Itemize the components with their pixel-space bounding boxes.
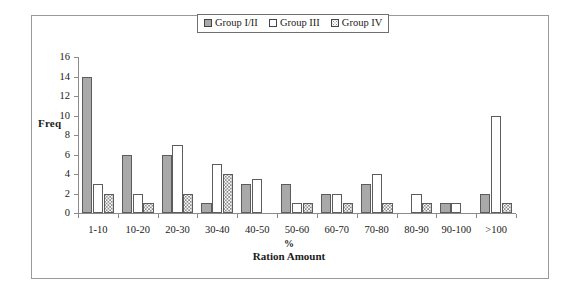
x-axis-tick-label: 10-20	[125, 223, 150, 236]
plot-area: 0246810121416 1-1010-2020-3030-4040-5050…	[78, 57, 516, 214]
x-axis-tick	[237, 214, 238, 218]
bar	[480, 194, 490, 214]
x-axis-tick	[197, 214, 198, 218]
bar	[321, 194, 331, 214]
y-axis-tick-label: 8	[65, 128, 70, 141]
y-axis-title: Freq	[38, 117, 61, 129]
y-axis-tick-label: 14	[60, 70, 71, 83]
bar	[241, 184, 251, 213]
bar	[422, 203, 432, 213]
y-axis-tick-label: 6	[65, 148, 70, 161]
x-axis-title: % Ration Amount	[0, 238, 578, 263]
bar	[332, 194, 342, 214]
bar	[172, 145, 182, 213]
y-axis-tick-label: 10	[60, 109, 71, 122]
y-axis-tick: 12	[74, 96, 78, 97]
x-axis-tick-label: 1-10	[88, 223, 107, 236]
bar	[411, 194, 421, 214]
bar	[212, 164, 222, 213]
x-axis-tick-label: 80-90	[404, 223, 429, 236]
x-axis-tick	[357, 214, 358, 218]
legend-label-group-iv: Group IV	[342, 17, 383, 29]
x-axis-tick-label: 60-70	[325, 223, 350, 236]
x-axis-title-text: Ration Amount	[0, 250, 578, 263]
y-axis-tick-label: 0	[65, 206, 70, 219]
bar	[82, 77, 92, 214]
x-axis-tick	[118, 214, 119, 218]
x-axis-tick-label: 30-40	[205, 223, 230, 236]
y-axis-tick-label: 16	[60, 50, 71, 63]
bar	[343, 203, 353, 213]
x-axis-tick-label: >100	[485, 223, 507, 236]
x-axis-tick-label: 50-60	[285, 223, 310, 236]
bar	[491, 116, 501, 214]
bar	[252, 179, 262, 213]
x-axis-tick	[277, 214, 278, 218]
bar	[162, 155, 172, 214]
y-axis-tick: 4	[74, 174, 78, 175]
bar	[223, 174, 233, 213]
legend-item-group-i-ii: Group I/II	[204, 17, 258, 29]
bar	[183, 194, 193, 214]
y-axis-tick-label: 4	[65, 167, 70, 180]
legend-label-group-iii: Group III	[280, 17, 320, 29]
x-axis-tick-label: 90-100	[441, 223, 471, 236]
y-axis-tick-label: 12	[60, 89, 71, 102]
y-axis-tick: 8	[74, 135, 78, 136]
bar	[451, 203, 461, 213]
solid-gray-swatch-icon	[204, 19, 212, 27]
y-axis-tick: 16	[74, 57, 78, 58]
bar	[122, 155, 132, 214]
dotted-swatch-icon	[331, 19, 339, 27]
y-axis-tick-label: 2	[65, 187, 70, 200]
x-axis-tick	[476, 214, 477, 218]
bar	[93, 184, 103, 213]
x-axis-tick	[78, 214, 79, 218]
legend-item-group-iv: Group IV	[331, 17, 383, 29]
legend-label-group-i-ii: Group I/II	[215, 17, 258, 29]
bar	[440, 203, 450, 213]
x-axis-tick	[516, 214, 517, 218]
x-axis-tick-label: 40-50	[245, 223, 270, 236]
bar	[303, 203, 313, 213]
bar	[104, 194, 114, 214]
bar	[382, 203, 392, 213]
bar	[292, 203, 302, 213]
bar	[502, 203, 512, 213]
x-axis-tick	[397, 214, 398, 218]
x-axis-tick-label: 70-80	[364, 223, 389, 236]
bar	[201, 203, 211, 213]
x-axis-tick-label: 20-30	[165, 223, 190, 236]
y-axis-tick: 14	[74, 77, 78, 78]
bar	[281, 184, 291, 213]
x-axis-title-unit: %	[0, 238, 578, 250]
y-axis-line	[78, 57, 79, 214]
chart-legend: Group I/II Group III Group IV	[197, 14, 389, 33]
bar	[361, 184, 371, 213]
y-axis-tick: 10	[74, 116, 78, 117]
white-swatch-icon	[269, 19, 277, 27]
bar	[133, 194, 143, 214]
x-axis-tick	[317, 214, 318, 218]
y-axis-tick: 6	[74, 155, 78, 156]
x-axis-tick	[436, 214, 437, 218]
x-axis-tick	[158, 214, 159, 218]
y-axis-tick: 2	[74, 194, 78, 195]
x-axis-line	[78, 213, 516, 214]
bar	[143, 203, 153, 213]
bar	[372, 174, 382, 213]
legend-item-group-iii: Group III	[269, 17, 320, 29]
